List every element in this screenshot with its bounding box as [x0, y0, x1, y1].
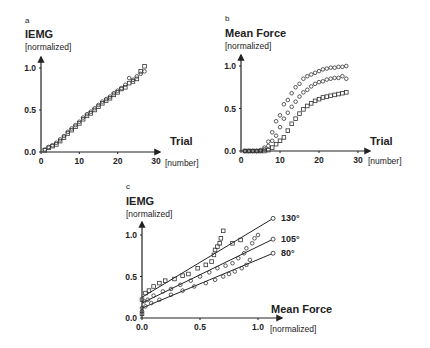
data-point-circle [345, 77, 349, 81]
data-point-circle [216, 266, 220, 270]
x-axis-title-c: Mean Force [271, 303, 332, 315]
data-point-circle [253, 237, 257, 241]
series-label: 130° [281, 213, 300, 223]
x-tick-label: 10 [275, 155, 285, 165]
x-axis-unit-a: [number] [165, 158, 199, 168]
y-tick-label: 0.0 [125, 313, 137, 323]
y-tick-label: 1.0 [24, 63, 36, 73]
data-point-square [302, 108, 306, 112]
y-axis-title-a: IEMG [25, 28, 53, 40]
data-point-square [317, 97, 321, 101]
fit-end-marker [271, 216, 275, 220]
fit-end-marker [271, 237, 275, 241]
x-tick-label: 10 [75, 156, 85, 166]
data-point-square [204, 263, 208, 267]
y-axis-title-b: Mean Force [225, 27, 286, 39]
data-point-circle [329, 77, 333, 81]
data-point-square [219, 237, 223, 241]
data-point-circle [302, 91, 306, 95]
series-labels-c: 130°105°80° [281, 213, 300, 258]
data-point-circle [233, 270, 237, 274]
data-point-square [337, 92, 341, 96]
x-axis-unit-c: [normalized] [270, 324, 316, 334]
data-point-circle [267, 140, 271, 144]
fit-lines-c [142, 216, 275, 308]
data-point-square [341, 91, 345, 95]
y-axis-unit-a: [normalized] [25, 42, 71, 52]
figure: a IEMG [normalized] Trial [number] 01020… [0, 0, 430, 348]
x-tick-label: 0 [39, 156, 44, 166]
data-point-square [313, 99, 317, 103]
panel-a-chart: a IEMG [normalized] Trial [number] 01020… [24, 16, 198, 168]
data-point-circle [124, 83, 128, 87]
data-point-circle [302, 77, 306, 81]
data-point-square [278, 139, 282, 143]
data-point-circle [135, 75, 139, 79]
data-point-circle [306, 74, 310, 78]
data-point-circle [236, 256, 240, 260]
series-label: 80° [281, 248, 295, 258]
data-point-square [187, 272, 191, 276]
x-tick-label: 30 [353, 155, 363, 165]
data-points-c [140, 229, 260, 316]
x-tick-label: 0.0 [136, 322, 148, 332]
data-point-circle [333, 76, 337, 80]
fit-line [142, 253, 273, 308]
data-point-circle [345, 64, 349, 68]
data-point-circle [298, 95, 302, 99]
data-point-circle [248, 258, 252, 262]
data-point-square [158, 281, 162, 285]
x-tick-label: 0.5 [194, 322, 206, 332]
data-point-circle [306, 88, 310, 92]
data-point-circle [143, 70, 147, 74]
data-point-circle [317, 80, 321, 84]
panel-c-chart: c IEMG [normalized] Mean Force [normaliz… [125, 182, 332, 334]
data-point-square [329, 94, 333, 98]
data-point-circle [256, 233, 260, 237]
data-point-square [163, 279, 167, 283]
y-tick-label: 0.0 [24, 147, 36, 157]
data-point-circle [221, 275, 225, 279]
data-point-circle [207, 271, 211, 275]
data-point-circle [341, 65, 345, 69]
y-axis-unit-c: [normalized] [126, 209, 172, 219]
data-point-circle [317, 69, 321, 73]
fit-end-marker [271, 251, 275, 255]
data-point-circle [321, 80, 325, 84]
x-tick-label: 20 [314, 155, 324, 165]
data-point-square [321, 96, 325, 100]
data-point-square [294, 117, 298, 121]
x-axis-unit-b: [number] [368, 156, 402, 166]
x-axis-title-a: Trial [170, 135, 193, 147]
data-point-square [306, 104, 310, 108]
data-point-square [143, 65, 147, 69]
data-point-circle [321, 68, 325, 72]
data-point-circle [270, 131, 274, 135]
data-point-circle [270, 139, 274, 143]
data-point-circle [290, 105, 294, 109]
data-point-circle [290, 91, 294, 95]
x-tick-label: 1.0 [252, 322, 264, 332]
data-point-circle [274, 119, 278, 123]
data-point-circle [278, 125, 282, 129]
data-point-square [290, 122, 294, 126]
panel-label-a: a [25, 16, 30, 25]
data-point-circle [213, 278, 217, 282]
data-point-circle [245, 246, 249, 250]
data-point-square [298, 112, 302, 116]
data-point-circle [333, 66, 337, 70]
data-point-square [181, 274, 185, 278]
data-point-circle [274, 134, 278, 138]
data-point-circle [329, 66, 333, 70]
y-axis-title-c: IEMG [126, 195, 154, 207]
data-point-circle [267, 144, 271, 148]
data-point-square [286, 129, 290, 133]
data-point-square [282, 136, 286, 140]
axes-c: 0.00.51.00.00.51.0 [125, 222, 282, 332]
data-point-circle [231, 261, 235, 265]
y-tick-label: 0.5 [224, 104, 236, 114]
data-point-circle [337, 65, 341, 69]
data-point-square [333, 93, 337, 97]
x-tick-label: 20 [113, 156, 123, 166]
data-point-circle [313, 82, 317, 86]
